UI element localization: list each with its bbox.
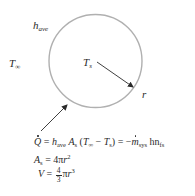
volume-equation: V = 43πr3 [38, 167, 75, 183]
radius-arrow [97, 62, 133, 87]
surface-area-equation: As = 4πr2 [34, 154, 71, 167]
sphere-figure [0, 0, 195, 196]
t-surface-label: Ts [83, 57, 92, 70]
h-ave-label: have [33, 20, 48, 33]
radius-label: r [142, 89, 146, 100]
heat-flow-arrow [41, 105, 67, 131]
t-infinity-label: T∞ [9, 58, 20, 71]
four-thirds-fraction: 43 [56, 167, 62, 183]
energy-balance-equation: Q = have As (T∞ − Ts) = −msys hnfs [34, 137, 164, 149]
sphere-circle [49, 15, 142, 108]
